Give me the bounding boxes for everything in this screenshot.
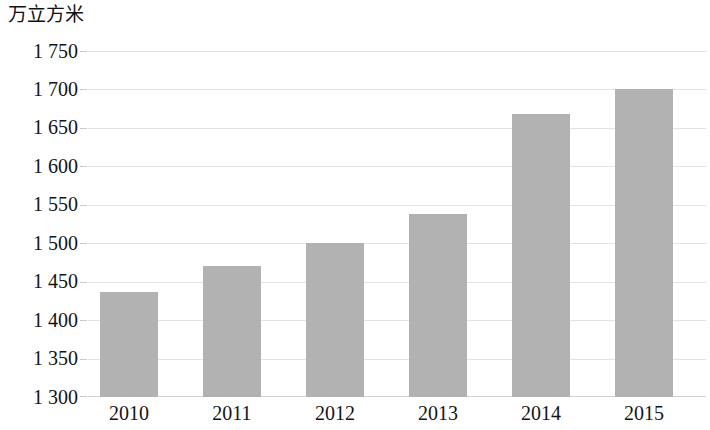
gridline xyxy=(88,51,706,52)
y-axis-tick-labels: 1 750 1 700 1 650 1 600 1 550 1 500 1 45… xyxy=(0,0,78,430)
x-tick-label: 2012 xyxy=(296,400,374,426)
gridline xyxy=(88,282,706,283)
gridline xyxy=(88,359,706,360)
y-tick-label: 1 400 xyxy=(33,310,78,330)
x-tick-label: 2015 xyxy=(605,400,683,426)
bar-2015 xyxy=(615,89,673,397)
y-tick-label: 1 500 xyxy=(33,233,78,253)
x-tick-label: 2011 xyxy=(193,400,271,426)
y-tick-label: 1 700 xyxy=(33,79,78,99)
gridline xyxy=(88,128,706,129)
x-tick-label: 2013 xyxy=(399,400,477,426)
bar-2011 xyxy=(203,266,261,397)
gridline xyxy=(88,320,706,321)
y-tick-label: 1 750 xyxy=(33,41,78,61)
bar-2010 xyxy=(100,292,158,397)
y-tick-label: 1 350 xyxy=(33,348,78,368)
gridline xyxy=(88,166,706,167)
x-axis-line xyxy=(88,396,706,397)
x-tick-label: 2010 xyxy=(90,400,168,426)
gridline xyxy=(88,89,706,90)
y-tick-label: 1 300 xyxy=(33,387,78,407)
y-tick-label: 1 450 xyxy=(33,271,78,291)
y-tick-label: 1 600 xyxy=(33,156,78,176)
y-tick-label: 1 550 xyxy=(33,194,78,214)
plot-area xyxy=(88,51,706,397)
bar-chart-figure: 万立方米 1 750 1 700 1 650 1 600 1 550 1 500… xyxy=(0,0,710,430)
y-tick-label: 1 650 xyxy=(33,117,78,137)
gridline xyxy=(88,243,706,244)
bar-2013 xyxy=(409,214,467,397)
gridline xyxy=(88,205,706,206)
bar-2012 xyxy=(306,243,364,397)
x-axis-tick-labels: 2010 2011 2012 2013 2014 2015 xyxy=(88,400,706,430)
bar-2014 xyxy=(512,114,570,397)
x-tick-label: 2014 xyxy=(502,400,580,426)
